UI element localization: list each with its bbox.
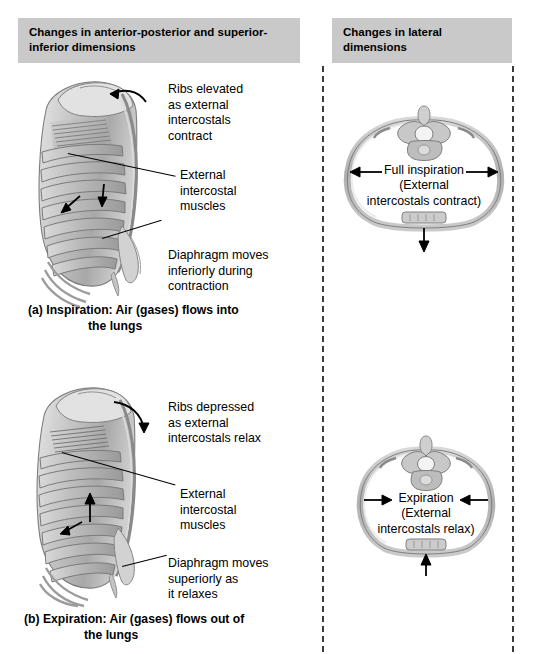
figure-canvas: Changes in anterior-posterior and superi… <box>0 0 535 654</box>
label-full-inspiration: Full inspiration (External intercostals … <box>346 163 502 209</box>
caption-a-cont: the lungs <box>28 319 308 335</box>
vertebra <box>380 436 472 491</box>
label-external-intercostal-muscles-b: External intercostal muscles <box>180 487 300 534</box>
label-external-intercostal-muscles-a: External intercostal muscles <box>180 168 300 215</box>
label-ribs-elevated: Ribs elevated as external intercostals c… <box>168 82 298 144</box>
header-left-dimensions: Changes in anterior-posterior and superi… <box>18 18 300 63</box>
caption-b-main: (b) Expiration: Air (gases) flows out of <box>24 612 244 626</box>
caption-b-cont: the lungs <box>24 628 314 644</box>
vertebra <box>374 106 474 161</box>
label-diaphragm-superior: Diaphragm moves superiorly as it relaxes <box>168 556 308 603</box>
label-ribs-depressed: Ribs depressed as external intercostals … <box>168 400 308 447</box>
header-right-dimensions: Changes in lateral dimensions <box>332 18 512 63</box>
label-diaphragm-inferior: Diaphragm moves inferiorly during contra… <box>168 248 308 295</box>
arrow-sternum-down <box>419 228 429 252</box>
ribcage-illustration-inspiration <box>18 76 178 308</box>
sternum <box>406 539 446 550</box>
divider-dashed-left <box>322 66 324 652</box>
caption-a-main: (a) Inspiration: Air (gases) flows into <box>28 303 239 317</box>
label-expiration: Expiration (External intercostals relax) <box>352 491 500 537</box>
divider-dashed-right <box>512 66 514 652</box>
sternum <box>402 212 446 223</box>
caption-panel-b: (b) Expiration: Air (gases) flows out of… <box>24 612 314 643</box>
caption-panel-a: (a) Inspiration: Air (gases) flows into … <box>28 303 308 334</box>
ribcage-illustration-expiration <box>18 380 178 606</box>
